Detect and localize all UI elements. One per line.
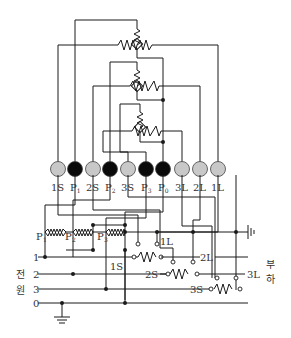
terminal-1l	[211, 162, 226, 177]
line-label-0: 0	[33, 298, 39, 309]
ct3-s-label: 3S	[190, 284, 203, 295]
terminal-2l	[193, 162, 208, 177]
terminal-p0	[156, 162, 171, 177]
pt2-label: P	[65, 231, 72, 242]
ct2-l-label: 2L	[200, 252, 213, 263]
line-label-2: 2	[33, 269, 39, 280]
terminal-3s	[121, 162, 136, 177]
pt3-label: P	[97, 231, 104, 242]
meter-element-3	[103, 104, 182, 163]
pt2-sub: 2	[72, 236, 76, 243]
pt3-sub: 3	[104, 236, 108, 243]
terminal-p1	[68, 162, 83, 177]
meter-element-2	[93, 62, 200, 163]
source-lines	[38, 250, 248, 323]
ct1-s-label: 1S	[110, 261, 123, 272]
pt1-sub: 1	[43, 236, 47, 243]
load-label-1: 부	[266, 259, 275, 270]
terminal-3l	[175, 162, 190, 177]
terminal-block: 1SP12SP23SP3P03L2L1L	[51, 162, 226, 195]
wiring-diagram: 1SP12SP23SP3P03L2L1L	[0, 0, 291, 338]
source-label-1: 전	[16, 269, 25, 280]
source-label-2: 원	[16, 285, 25, 296]
terminal-2s	[86, 162, 101, 177]
pt1-label: P	[36, 231, 43, 242]
terminal-p3	[139, 162, 154, 177]
ct3-l-label: 3L	[247, 269, 260, 280]
terminal-p2	[103, 162, 118, 177]
line-label-3: 3	[33, 284, 39, 295]
potential-transformers	[45, 223, 127, 252]
load-label-2: 하	[266, 273, 275, 285]
ct2-s-label: 2S	[145, 269, 158, 280]
terminal-1s	[51, 162, 66, 177]
ct1-l-label: 1L	[160, 236, 173, 247]
meter-element-1	[58, 20, 218, 163]
line-label-1: 1	[33, 252, 39, 263]
